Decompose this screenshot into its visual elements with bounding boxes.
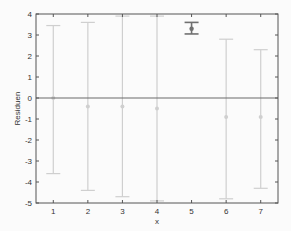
y-tick-label: -1: [25, 115, 33, 124]
y-tick-label: -5: [25, 199, 33, 208]
error-bar: [46, 26, 60, 174]
x-axis-label: x: [155, 217, 159, 226]
error-bar: [185, 22, 199, 34]
y-axis-label: Residuen: [13, 92, 22, 126]
x-tick-label: 5: [189, 207, 194, 216]
y-tick-label: 0: [28, 94, 33, 103]
error-bar: [81, 22, 95, 190]
data-point: [224, 115, 228, 119]
x-tick-label: 1: [51, 207, 56, 216]
y-tick-label: 2: [28, 52, 33, 61]
x-tick-label: 6: [224, 207, 229, 216]
axis-ticks: 1234567-5-4-3-2-101234: [25, 10, 278, 216]
error-bars: [46, 16, 267, 201]
y-tick-label: 1: [28, 73, 33, 82]
x-tick-label: 7: [258, 207, 263, 216]
y-tick-label: -2: [25, 136, 33, 145]
data-point: [259, 115, 263, 119]
data-point: [155, 107, 159, 111]
error-bar: [115, 16, 129, 197]
chart-canvas: 1234567-5-4-3-2-101234 x Residuen: [0, 0, 291, 231]
y-tick-label: 4: [28, 10, 33, 19]
error-bar: [254, 50, 268, 189]
data-point: [86, 104, 90, 108]
x-tick-label: 4: [155, 207, 160, 216]
data-point: [189, 27, 193, 31]
data-point: [120, 104, 124, 108]
y-tick-label: 3: [28, 31, 33, 40]
x-tick-label: 2: [86, 207, 91, 216]
residual-chart: 1234567-5-4-3-2-101234 x Residuen: [0, 0, 291, 231]
y-tick-label: -3: [25, 157, 33, 166]
error-bar: [219, 39, 233, 199]
y-tick-label: -4: [25, 178, 33, 187]
x-tick-label: 3: [120, 207, 125, 216]
error-bar: [150, 16, 164, 201]
